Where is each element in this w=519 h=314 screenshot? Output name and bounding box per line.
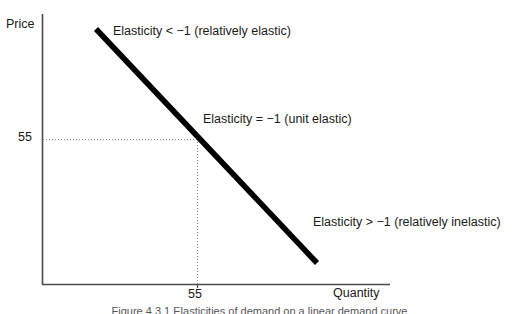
y-axis-label: Price: [6, 18, 34, 31]
demand-curve: [96, 29, 317, 263]
figure-caption: Figure 4.3.1 Elasticities of demand on a…: [0, 305, 519, 314]
x-axis-label: Quantity: [333, 287, 380, 300]
annotation-relatively-inelastic: Elasticity > −1 (relatively inelastic): [313, 216, 501, 229]
y-axis-tick-label: 55: [18, 131, 32, 144]
annotation-unit-elastic: Elasticity = −1 (unit elastic): [203, 113, 352, 126]
elasticity-demand-figure: Price Quantity 55 55 Elasticity < −1 (re…: [0, 0, 519, 314]
annotation-relatively-elastic: Elasticity < −1 (relatively elastic): [113, 25, 291, 38]
chart-canvas: [0, 0, 519, 314]
x-axis-tick-label: 55: [188, 288, 202, 301]
